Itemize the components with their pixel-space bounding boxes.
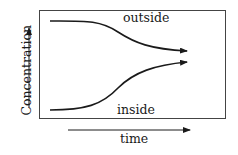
x-axis-label: time xyxy=(120,133,148,146)
outside-label: outside xyxy=(123,12,169,25)
y-axis-label: Concentration xyxy=(21,22,34,118)
outside-curve xyxy=(50,21,187,51)
inside-label: inside xyxy=(117,104,155,117)
diagram-canvas xyxy=(0,0,238,155)
